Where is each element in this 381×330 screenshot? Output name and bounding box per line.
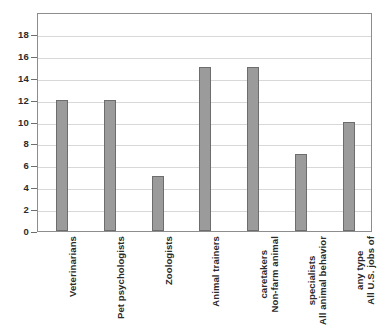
gridline [38,36,371,37]
bar-chart: 024681012141618 VeterinariansPet psychol… [0,0,381,330]
x-axis-label-line: any type [354,236,365,305]
y-axis-label: 12 [3,96,29,105]
bar[interactable] [199,67,211,231]
gridline [38,58,371,59]
x-axis-label-line: specialists [306,236,317,325]
y-axis-label: 2 [3,205,29,214]
x-axis-label-line: Non-farm animal [269,236,280,312]
x-axis-label-line: Veterinarians [67,236,78,297]
bar[interactable] [295,154,307,231]
x-axis-labels: VeterinariansPet psychologistsZoologists… [37,236,372,330]
x-axis-label-line: Zoologists [163,236,174,285]
y-axis-label: 0 [3,227,29,236]
x-axis-label-line: Animal trainers [210,236,221,307]
x-axis-label-line: Pet psychologists [115,236,126,319]
y-axis-label: 10 [3,118,29,127]
y-axis-label: 4 [3,183,29,192]
x-axis-label-line: All animal behavior [317,236,328,325]
x-axis-label-line: caretakers [258,236,269,312]
y-axis-label: 8 [3,139,29,148]
y-axis-label: 16 [3,52,29,61]
bar[interactable] [104,100,116,231]
bar[interactable] [247,67,259,231]
bar[interactable] [152,176,164,231]
plot-area [37,13,372,232]
y-axis-tick [31,232,37,233]
y-axis-label: 18 [3,30,29,39]
bar[interactable] [343,122,355,232]
y-axis-label: 6 [3,161,29,170]
bar[interactable] [56,100,68,231]
x-axis-label-line: All U.S. jobs of [365,236,376,305]
y-axis-label: 14 [3,74,29,83]
x-axis-label: All U.S. jobs ofany type [354,236,381,330]
